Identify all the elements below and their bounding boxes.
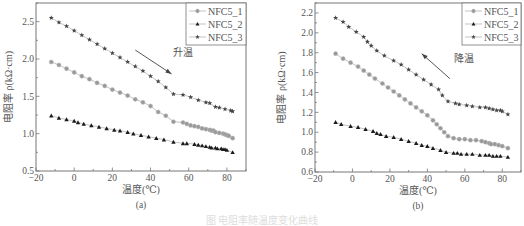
annotation-text: 升温 xyxy=(173,47,193,58)
circle-marker xyxy=(141,100,145,104)
series-line xyxy=(336,54,508,148)
y-axis-label: 电阻率 ρ(kΩ·cm) xyxy=(2,51,15,123)
x-tick-label: 40 xyxy=(423,174,433,184)
circle-marker xyxy=(367,72,371,76)
x-tick-label: 0 xyxy=(72,173,77,183)
star-marker xyxy=(217,105,222,110)
star-marker xyxy=(470,104,475,109)
circle-marker xyxy=(204,127,208,131)
circle-marker xyxy=(386,85,390,89)
circle-marker xyxy=(126,93,130,97)
figure: −200204060800.51.01.52.02.5温度(℃)电阻率 ρ(kΩ… xyxy=(0,0,524,226)
circle-marker xyxy=(403,97,407,101)
circle-marker xyxy=(474,138,478,142)
x-tick-label: 80 xyxy=(222,173,232,183)
star-marker xyxy=(180,92,185,97)
star-marker xyxy=(494,108,499,113)
circle-marker xyxy=(196,9,200,13)
star-marker xyxy=(64,24,69,29)
y-tick-label: 0.8 xyxy=(301,147,313,157)
legend: NFC5_1NFC5_2NFC5_3 xyxy=(186,3,246,45)
circle-marker xyxy=(341,57,345,61)
legend: NFC5_1NFC5_2NFC5_3 xyxy=(462,3,521,45)
circle-marker xyxy=(103,84,107,88)
panel-label: (a) xyxy=(136,200,147,211)
circle-marker xyxy=(500,144,504,148)
x-tick-label: 20 xyxy=(108,173,118,183)
circle-marker xyxy=(506,146,510,150)
star-marker xyxy=(382,53,387,58)
annotation-text: 降温 xyxy=(454,52,474,64)
circle-marker xyxy=(472,9,476,13)
x-tick-label: 80 xyxy=(498,174,508,184)
circle-marker xyxy=(87,77,91,81)
y-tick-label: 1.8 xyxy=(301,48,313,58)
star-marker xyxy=(490,107,495,112)
y-tick-label: 0.6 xyxy=(301,167,313,177)
circle-marker xyxy=(373,76,377,80)
panel-label: (b) xyxy=(412,201,423,212)
chart-panel-b: −200204060800.60.81.01.21.41.61.82.02.2温… xyxy=(275,3,521,212)
annotation: 降温 xyxy=(422,52,474,79)
star-marker xyxy=(110,50,115,55)
y-tick-label: 2.5 xyxy=(22,17,34,27)
star-marker xyxy=(102,46,107,51)
legend-label: NFC5_2 xyxy=(484,19,518,30)
y-tick-label: 1.2 xyxy=(301,108,313,118)
circle-marker xyxy=(57,63,61,67)
circle-marker xyxy=(200,126,204,130)
x-axis: −20020406080 xyxy=(29,168,246,184)
circle-marker xyxy=(463,137,467,141)
circle-marker xyxy=(231,136,235,140)
circle-marker xyxy=(133,97,137,101)
star-marker xyxy=(483,105,488,110)
series-nfc5-2 xyxy=(49,114,235,155)
legend-label: NFC5_3 xyxy=(484,32,518,43)
y-tick-label: 2.0 xyxy=(22,54,34,64)
circle-marker xyxy=(380,81,384,85)
circle-marker xyxy=(334,52,338,56)
circle-marker xyxy=(420,109,424,113)
star-marker xyxy=(72,28,77,33)
circle-marker xyxy=(457,137,461,141)
circle-marker xyxy=(442,130,446,134)
circle-marker xyxy=(435,122,439,126)
y-axis-label: 电阻率 ρ(kΩ·cm) xyxy=(275,51,288,123)
star-marker xyxy=(196,97,201,102)
circle-marker xyxy=(110,88,114,92)
figure-caption: 图 电阻率随温度变化曲线 xyxy=(0,212,524,226)
circle-marker xyxy=(164,114,168,118)
circle-marker xyxy=(189,123,193,127)
legend-label: NFC5_1 xyxy=(484,6,518,17)
circle-marker xyxy=(431,118,435,122)
x-tick-label: 0 xyxy=(350,174,355,184)
y-axis: 0.51.01.52.02.5 xyxy=(22,3,39,176)
legend-label: NFC5_3 xyxy=(208,32,242,43)
circle-marker xyxy=(196,125,200,129)
annotation: 升温 xyxy=(135,47,192,74)
star-marker xyxy=(436,87,441,92)
star-marker xyxy=(49,15,54,20)
circle-marker xyxy=(438,126,442,130)
circle-marker xyxy=(95,81,99,85)
circle-marker xyxy=(148,104,152,108)
x-tick-label: 60 xyxy=(460,174,470,184)
circle-marker xyxy=(446,134,450,138)
x-axis-label: 温度(℃) xyxy=(122,183,160,196)
x-axis: −20020406080 xyxy=(308,169,521,185)
chart-canvas: −200204060800.51.01.52.02.5温度(℃)电阻率 ρ(kΩ… xyxy=(0,0,524,226)
circle-marker xyxy=(348,61,352,65)
star-marker xyxy=(477,105,482,110)
circle-marker xyxy=(451,136,455,140)
y-tick-label: 1.0 xyxy=(301,127,313,137)
y-axis: 0.60.81.01.21.41.61.82.02.2 xyxy=(301,3,318,177)
circle-marker xyxy=(213,130,217,134)
circle-marker xyxy=(171,120,175,124)
circle-marker xyxy=(408,101,412,105)
circle-marker xyxy=(362,69,366,73)
star-marker xyxy=(333,15,338,20)
series-line xyxy=(51,62,232,138)
star-marker xyxy=(56,20,61,25)
circle-marker xyxy=(49,60,53,64)
circle-marker xyxy=(414,105,418,109)
